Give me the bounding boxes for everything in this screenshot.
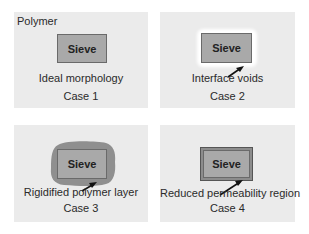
description-case-4: Reduced permeability region xyxy=(160,187,295,199)
case-label-4: Case 4 xyxy=(160,202,295,214)
